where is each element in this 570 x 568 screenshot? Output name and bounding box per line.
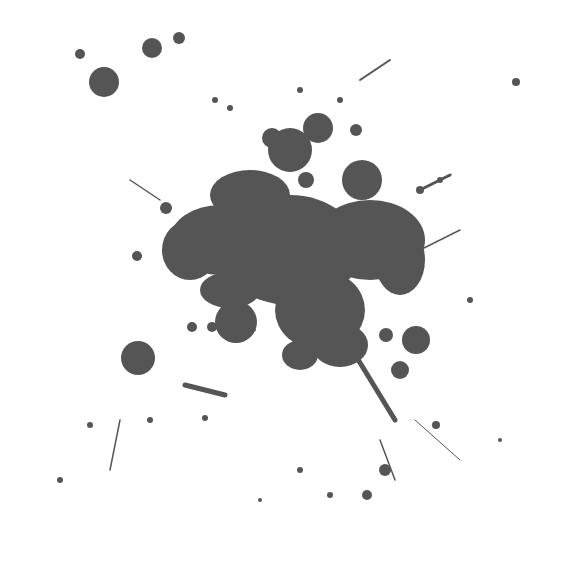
ink-splatter — [0, 0, 570, 568]
